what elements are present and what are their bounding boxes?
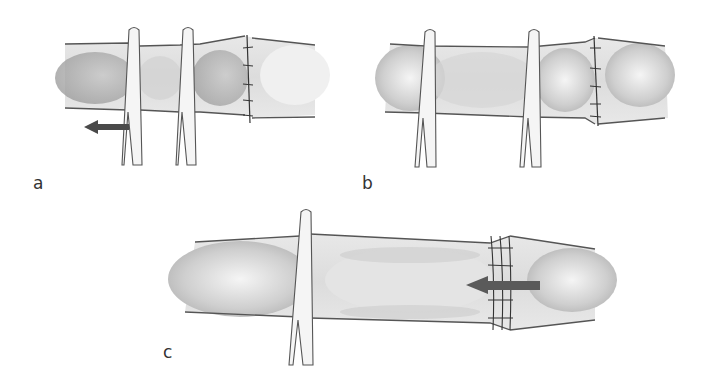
panel-label-a: a [33,173,43,193]
arrow-left-icon [84,120,129,134]
panel-b [375,30,675,168]
anastomosis-diagram [0,0,710,381]
panel-a [55,28,330,166]
panel-label-b: b [362,173,373,193]
panel-c [168,210,617,366]
panel-label-c: c [163,342,172,362]
